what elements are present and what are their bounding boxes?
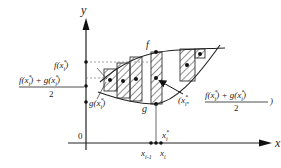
- axes: [68, 18, 272, 150]
- x-dot-curr: [159, 141, 163, 145]
- svg-text:xi: xi: [159, 148, 166, 160]
- y-dot-g: [84, 100, 88, 104]
- label-mid-value: f(x*i) + g(x*i) 2: [19, 74, 84, 99]
- curve-f-label: f: [146, 39, 150, 50]
- label-f-value: f(x*i): [54, 59, 68, 72]
- f-point-dot: [154, 50, 158, 54]
- y-dot-f: [84, 60, 88, 64]
- midpoint-dot: [121, 79, 125, 83]
- x-dot-star: [154, 141, 158, 145]
- svg-text:xi-1: xi-1: [140, 148, 152, 160]
- x-axis-arrow-icon: [259, 140, 272, 147]
- diagram-canvas: y x 0 f g f(x*i) f(x*i) + g(x*i) 2 g(x*i…: [0, 0, 281, 168]
- svg-text:(x*i,: (x*i,: [178, 94, 189, 107]
- pointer-arrow-icon: [160, 81, 183, 94]
- y-dot-mid: [84, 84, 88, 88]
- midpoint-dot: [134, 77, 138, 81]
- midpoint-dot: [185, 63, 189, 67]
- svg-text:2: 2: [234, 103, 239, 113]
- label-point: (x*i, f(x*i) + g(x*i) 2 ): [178, 89, 273, 113]
- riemann-rectangles: [104, 49, 205, 104]
- svg-text:f(x*i) + g(x*i): f(x*i) + g(x*i): [19, 74, 60, 87]
- svg-text:f(x*i): f(x*i): [54, 59, 68, 72]
- midpoint-dot: [198, 52, 202, 56]
- svg-text:x*i: x*i: [161, 129, 169, 142]
- y-axis-arrow-icon: [83, 18, 90, 30]
- riemann-sum-diagram: y x 0 f g f(x*i) f(x*i) + g(x*i) 2 g(x*i…: [0, 0, 281, 168]
- svg-text:2: 2: [49, 89, 54, 99]
- x-dot-prev: [149, 141, 153, 145]
- curve-g-label: g: [142, 103, 147, 114]
- midpoint-dot: [108, 78, 112, 82]
- label-g-value: g(x*i): [89, 97, 105, 110]
- midpoint-dot: [154, 76, 158, 80]
- svg-text:f(x*i) + g(x*i): f(x*i) + g(x*i): [205, 89, 246, 102]
- origin-label: 0: [78, 131, 83, 141]
- y-axis-label: y: [80, 3, 87, 17]
- x-axis-label: x: [274, 136, 281, 150]
- svg-text:): ): [269, 96, 273, 106]
- svg-text:g(x*i): g(x*i): [89, 97, 105, 110]
- x-tick-labels: xi-1 xi x*i: [140, 129, 169, 160]
